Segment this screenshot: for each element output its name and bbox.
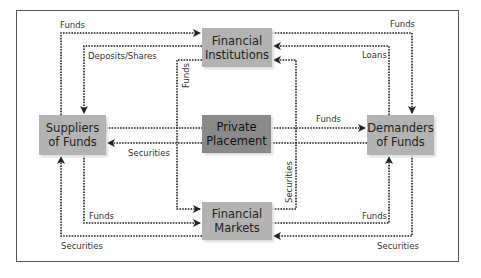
label-funds-bottom-right: Funds xyxy=(362,211,387,221)
label-funds-top-right: Funds xyxy=(390,19,415,29)
label-securities-bottom-right: Securities xyxy=(377,241,419,251)
label-funds-bottom-left: Funds xyxy=(89,211,114,221)
label-funds-vertical: Funds xyxy=(181,63,191,88)
label-funds-top-left: Funds xyxy=(60,20,85,30)
label-funds-middle: Funds xyxy=(316,114,341,124)
label-loans: Loans xyxy=(362,50,387,60)
label-deposits-shares: Deposits/Shares xyxy=(88,51,157,61)
label-securities-middle: Securities xyxy=(128,148,170,158)
suppliers-of-funds-node: Suppliers of Funds xyxy=(39,115,106,155)
financial-institutions-node: Financial Institutions xyxy=(202,28,272,67)
label-securities-bottom-left: Securities xyxy=(61,241,103,251)
demanders-of-funds-node: Demanders of Funds xyxy=(367,115,434,155)
financial-markets-node: Financial Markets xyxy=(202,202,272,240)
label-securities-vertical: Securities xyxy=(284,161,294,203)
private-placement-node: Private Placement xyxy=(202,115,271,153)
